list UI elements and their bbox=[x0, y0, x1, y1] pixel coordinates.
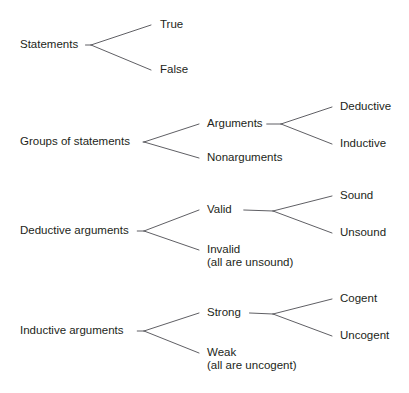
node-label-inductive: Inductive bbox=[340, 137, 386, 149]
node-label-cogent: Cogent bbox=[340, 292, 378, 304]
branch-deductive-arguments-unsound bbox=[273, 211, 332, 233]
node-label-deductive: Deductive bbox=[340, 100, 391, 112]
stem-deductive-arguments-valid bbox=[244, 210, 273, 211]
node-label-inductive-arguments: Inductive arguments bbox=[20, 324, 124, 336]
branch-deductive-arguments-invalid bbox=[144, 231, 199, 250]
classification-tree-svg: StatementsTrueFalseGroups of statementsA… bbox=[0, 0, 409, 393]
node-labels-group: StatementsTrueFalseGroups of statementsA… bbox=[20, 18, 391, 371]
node-label-groups-of-statements: Groups of statements bbox=[20, 135, 130, 147]
node-label-arguments: Arguments bbox=[207, 117, 263, 129]
node-label-true: True bbox=[160, 18, 183, 30]
node-label-deductive-arguments: Deductive arguments bbox=[20, 224, 129, 236]
node-label-uncogent: Uncogent bbox=[340, 329, 390, 341]
tree-diagram-canvas: StatementsTrueFalseGroups of statementsA… bbox=[0, 0, 409, 393]
connector-lines-group bbox=[86, 25, 333, 353]
branch-inductive-arguments-cogent bbox=[273, 299, 332, 314]
branch-deductive-arguments-sound bbox=[273, 196, 332, 211]
branch-inductive-arguments-uncogent bbox=[273, 314, 332, 336]
branch-statements-false bbox=[91, 45, 151, 70]
branch-inductive-arguments-strong bbox=[144, 313, 199, 331]
node-label-sound: Sound bbox=[340, 189, 373, 201]
node-sublabel-invalid: (all are unsound) bbox=[207, 256, 293, 268]
branch-groups-of-statements-nonarguments bbox=[144, 142, 199, 158]
branch-groups-of-statements-arguments bbox=[144, 124, 199, 142]
node-label-valid: Valid bbox=[207, 203, 232, 215]
stem-inductive-arguments-strong bbox=[250, 313, 274, 314]
node-label-invalid: Invalid bbox=[207, 243, 240, 255]
branch-statements-true bbox=[91, 25, 151, 45]
branch-deductive-arguments-valid bbox=[144, 210, 199, 231]
node-label-weak: Weak bbox=[207, 346, 236, 358]
node-label-nonarguments: Nonarguments bbox=[207, 151, 283, 163]
branch-inductive-arguments-weak bbox=[144, 331, 199, 353]
node-label-statements: Statements bbox=[20, 38, 78, 50]
node-sublabel-weak: (all are uncogent) bbox=[207, 359, 297, 371]
node-label-unsound: Unsound bbox=[340, 226, 386, 238]
branch-groups-of-statements-deductive bbox=[281, 107, 332, 124]
node-label-strong: Strong bbox=[207, 306, 241, 318]
node-label-false: False bbox=[160, 63, 188, 75]
branch-groups-of-statements-inductive bbox=[281, 124, 332, 144]
